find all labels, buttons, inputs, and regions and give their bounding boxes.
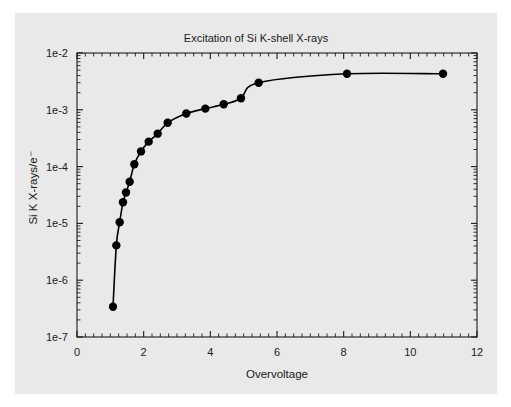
y-tick-label: 1e-4 [46, 161, 68, 173]
data-point-marker [112, 241, 120, 249]
data-point-marker [137, 147, 145, 155]
data-point-marker [163, 119, 171, 127]
y-tick-label: 1e-2 [46, 47, 68, 59]
x-tick-label: 6 [274, 346, 280, 358]
x-axis-ticks [77, 53, 477, 337]
data-series-group [109, 70, 447, 311]
x-axis-tick-labels: 024681012 [74, 346, 483, 358]
y-tick-label: 1e-5 [46, 217, 68, 229]
x-tick-label: 0 [74, 346, 80, 358]
data-point-marker [130, 160, 138, 168]
x-tick-label: 2 [141, 346, 147, 358]
axis-labels: Overvoltage Si K X-rays/e⁻ [27, 151, 308, 380]
data-point-marker [119, 198, 127, 206]
data-point-marker [109, 303, 117, 311]
x-tick-label: 12 [471, 346, 483, 358]
excitation-line-chart: Excitation of Si K-shell X-rays 02468101… [15, 13, 497, 394]
y-tick-label: 1e-6 [46, 274, 68, 286]
data-point-marker [237, 94, 245, 102]
data-point-marker [115, 218, 123, 226]
y-tick-label: 1e-3 [46, 104, 68, 116]
data-point-marker [343, 70, 351, 78]
data-point-marker [153, 129, 161, 137]
chart-title: Excitation of Si K-shell X-rays [184, 32, 329, 44]
axis-frame [77, 53, 477, 337]
y-axis-ticks [77, 53, 477, 337]
data-point-marker [182, 109, 190, 117]
y-axis-label: Si K X-rays/e⁻ [27, 151, 39, 224]
data-point-marker [254, 79, 262, 87]
data-point-marker [201, 104, 209, 112]
series-line [113, 73, 443, 307]
chart-panel: Excitation of Si K-shell X-rays 02468101… [15, 13, 497, 394]
figure-root: Excitation of Si K-shell X-rays 02468101… [0, 0, 511, 407]
x-tick-label: 4 [207, 346, 213, 358]
data-point-marker [439, 70, 447, 78]
x-tick-label: 10 [404, 346, 416, 358]
chart-title-group: Excitation of Si K-shell X-rays [184, 32, 329, 44]
y-tick-label: 1e-7 [46, 331, 68, 343]
data-point-marker [122, 188, 130, 196]
y-axis-tick-labels: 1e-21e-31e-41e-51e-61e-7 [46, 47, 68, 343]
data-point-marker [219, 100, 227, 108]
x-tick-label: 8 [341, 346, 347, 358]
data-point-marker [125, 178, 133, 186]
data-point-marker [144, 137, 152, 145]
series-markers [109, 70, 447, 311]
x-axis-label: Overvoltage [246, 368, 308, 380]
